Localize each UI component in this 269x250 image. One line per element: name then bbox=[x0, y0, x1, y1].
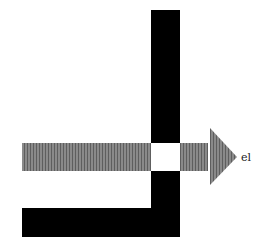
diagram-svg: el bbox=[0, 0, 269, 250]
beam-arrow bbox=[22, 128, 237, 185]
l-shaped-wall bbox=[22, 10, 180, 237]
diagram-canvas: el bbox=[0, 0, 269, 250]
wall-gap bbox=[151, 143, 180, 171]
arrow-label: el bbox=[241, 151, 252, 164]
